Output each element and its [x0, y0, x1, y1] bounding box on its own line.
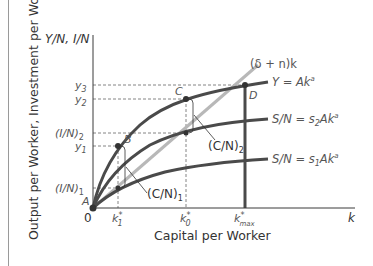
svg-text:y2: y2 — [74, 93, 87, 108]
svg-text:(C/N)1: (C/N)1 — [147, 187, 183, 203]
svg-text:D: D — [249, 89, 257, 102]
svg-text:S/N = s2Aka: S/N = s2Aka — [272, 112, 339, 128]
point-d — [242, 82, 248, 88]
curve-labels: (δ + n)k Y = Aka S/N = s2Aka S/N = s1Aka — [250, 57, 339, 168]
svg-text:(C/N)2: (C/N)2 — [208, 139, 244, 155]
svg-text:y1: y1 — [74, 140, 87, 155]
y-axis-label: Y/N, I/N — [45, 32, 90, 46]
origin-label: 0 — [84, 211, 92, 225]
y-tick-labels: y3 y2 (I/N)2 y1 (I/N)1 — [55, 79, 87, 197]
point-c — [183, 96, 189, 102]
svg-text:k*1: k*1 — [112, 211, 122, 228]
x-axis-label: k — [348, 211, 356, 225]
cn2-bracket — [189, 99, 193, 133]
svg-text:y3: y3 — [74, 79, 87, 94]
svg-text:Y = Aka: Y = Aka — [272, 75, 315, 89]
growth-diagram: Y/N, I/N k 0 y3 y2 (I/N)2 y1 (I/N)1 k*1 … — [0, 0, 373, 266]
x-tick-labels: k*1 k*0 k*max — [112, 211, 255, 228]
svg-text:(δ + n)k: (δ + n)k — [250, 57, 297, 71]
point-b — [115, 143, 121, 149]
svg-text:S/N = s1Aka: S/N = s1Aka — [272, 152, 339, 168]
svg-text:(I/N)1: (I/N)1 — [55, 182, 84, 197]
svg-text:k*max: k*max — [234, 211, 255, 228]
svg-text:k*0: k*0 — [180, 211, 190, 228]
svg-text:C: C — [175, 85, 183, 98]
point-in2 — [184, 131, 189, 136]
svg-text:B: B — [124, 133, 132, 146]
point-in1 — [116, 186, 121, 191]
svg-text:A: A — [81, 195, 90, 208]
